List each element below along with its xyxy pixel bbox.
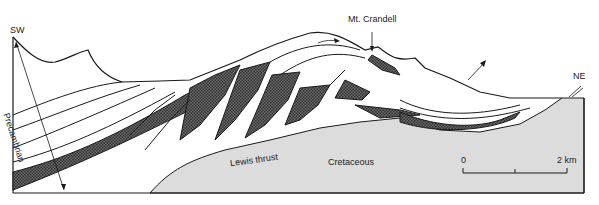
cross-section-svg [0, 0, 599, 205]
label-sw: SW [10, 26, 25, 35]
label-cretaceous: Cretaceous [328, 158, 374, 167]
thrust-arrow-top-head [334, 38, 340, 43]
label-ne: NE [573, 72, 586, 81]
label-mt-crandell: Mt. Crandell [348, 15, 397, 24]
cross-section-diagram: SW NE Mt. Crandell Precambrian Lewis thr… [0, 0, 599, 205]
scale-label-start: 0 [461, 156, 466, 165]
scale-label-end: 2 km [557, 156, 577, 165]
